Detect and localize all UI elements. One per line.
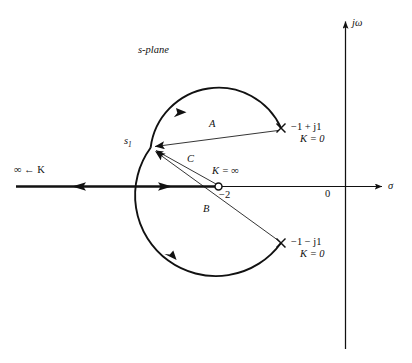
origin-label: 0 xyxy=(325,188,330,200)
test-point-label: s1 xyxy=(124,135,132,150)
vector-a-line xyxy=(155,131,278,147)
real-axis-locus-branch xyxy=(16,182,218,191)
zero-gain-label: K = ∞ xyxy=(212,165,239,177)
pole-lower-gain: K = 0 xyxy=(300,248,325,259)
root-locus-canvas xyxy=(0,0,412,363)
zero-value-label: −2 xyxy=(219,189,230,201)
pole-lower-annotation: −1 − j1 K = 0 xyxy=(291,236,325,260)
imaginary-axis-label: jω xyxy=(352,17,362,29)
vector-c-label: C xyxy=(187,153,194,165)
root-locus-figure: s-plane jω σ 0 ∞ ← K −1 + j1 K = 0 −1 − … xyxy=(0,0,412,363)
vector-c-line xyxy=(156,151,216,185)
page-title: s-plane xyxy=(138,44,169,56)
circular-locus xyxy=(135,88,281,276)
pole-upper-value: −1 + j1 xyxy=(291,121,322,132)
pole-upper-gain: K = 0 xyxy=(300,133,325,144)
vector-b-label: B xyxy=(203,203,209,215)
pole-upper-annotation: −1 + j1 K = 0 xyxy=(291,121,325,145)
pole-lower-value: −1 − j1 xyxy=(291,236,322,247)
pole-marker-upper xyxy=(277,124,286,133)
real-axis-label: σ xyxy=(388,180,393,192)
pole-marker-lower xyxy=(277,239,286,248)
vector-a-label: A xyxy=(209,118,215,130)
gain-to-infinity-label: ∞ ← K xyxy=(14,164,45,176)
